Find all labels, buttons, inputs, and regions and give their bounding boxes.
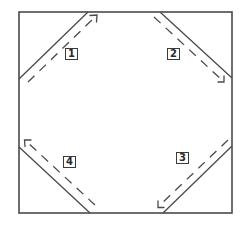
step-label-2: 2 (167, 48, 180, 60)
fold-line-1 (19, 12, 88, 79)
square-outline (19, 12, 232, 213)
fold-line-2 (160, 12, 232, 78)
fold-arrow-3-dashed (159, 140, 228, 206)
fold-line-4 (19, 147, 90, 213)
fold-2-top-right (154, 12, 232, 82)
fold-arrow-2-dashed (154, 17, 223, 81)
step-label-1: 1 (65, 48, 78, 60)
fold-1-top-left (19, 12, 97, 82)
fold-4-bottom-left (19, 140, 95, 213)
folding-diagram (0, 0, 249, 226)
fold-arrow-1-dashed (28, 17, 95, 82)
step-label-3: 3 (176, 152, 189, 164)
fold-3-bottom-right (158, 140, 232, 213)
step-label-4: 4 (63, 156, 76, 168)
arrowhead-3-icon (158, 201, 164, 208)
fold-line-3 (163, 146, 232, 213)
fold-arrow-4-dashed (26, 141, 95, 205)
